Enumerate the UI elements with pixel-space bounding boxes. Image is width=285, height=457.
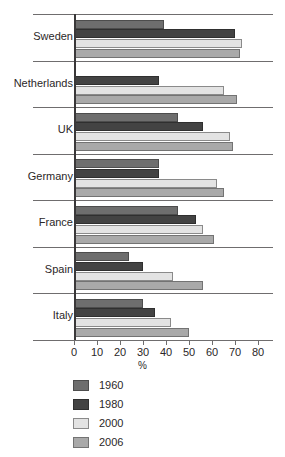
category-label-france: France: [39, 217, 73, 228]
bar-france-1960: [74, 206, 178, 215]
bar-spain-2006: [74, 281, 203, 290]
bar-sweden-1960: [74, 20, 164, 29]
category-label-sweden: Sweden: [33, 31, 73, 42]
bar-uk-2000: [74, 132, 230, 141]
legend-swatch-1980: [73, 399, 89, 410]
category-label-uk: UK: [58, 124, 73, 135]
group-separator: [33, 247, 273, 248]
legend-item-2006: 2006: [73, 433, 123, 451]
plot-area: SwedenNetherlandsUKGermanyFranceSpainIta…: [0, 14, 285, 340]
x-tick-label: 50: [183, 346, 195, 358]
bar-germany-2006: [74, 188, 224, 197]
category-label-italy: Italy: [53, 310, 73, 321]
zero-axis-line: [74, 14, 76, 341]
bar-italy-1960: [74, 299, 143, 308]
legend-item-2000: 2000: [73, 414, 123, 432]
legend-swatch-2000: [73, 418, 89, 429]
bottom-cropped-caption: [8, 451, 278, 457]
bar-spain-2000: [74, 272, 173, 281]
legend-label-1980: 1980: [99, 398, 123, 410]
legend-swatch-1960: [73, 380, 89, 391]
bar-sweden-1980: [74, 29, 235, 38]
bar-france-2000: [74, 225, 203, 234]
x-axis-line: [33, 340, 273, 341]
bar-spain-1980: [74, 262, 143, 271]
bar-france-1980: [74, 215, 196, 224]
x-tick: [97, 341, 98, 345]
bar-chart-figure: SwedenNetherlandsUKGermanyFranceSpainIta…: [0, 0, 285, 457]
group-separator: [33, 14, 273, 15]
legend-item-1960: 1960: [73, 376, 123, 394]
x-tick: [212, 341, 213, 345]
x-axis-title: %: [0, 360, 285, 371]
x-tick: [258, 341, 259, 345]
bar-germany-1980: [74, 169, 159, 178]
bar-group: Italy: [0, 293, 285, 340]
bar-netherlands-2000: [74, 86, 224, 95]
x-tick-label: 40: [160, 346, 172, 358]
x-tick-label: 10: [91, 346, 103, 358]
legend-item-1980: 1980: [73, 395, 123, 413]
x-tick: [74, 341, 75, 345]
bar-italy-2000: [74, 318, 171, 327]
group-separator: [33, 61, 273, 62]
legend-label-2006: 2006: [99, 436, 123, 448]
x-tick: [120, 341, 121, 345]
group-separator: [33, 107, 273, 108]
x-tick-label: 30: [137, 346, 149, 358]
x-tick-label: 70: [229, 346, 241, 358]
bar-group: Spain: [0, 247, 285, 294]
bar-italy-1980: [74, 308, 155, 317]
category-label-spain: Spain: [45, 264, 73, 275]
bar-uk-1960: [74, 113, 178, 122]
bar-italy-2006: [74, 328, 189, 337]
bar-spain-1960: [74, 252, 129, 261]
category-label-netherlands: Netherlands: [14, 78, 73, 89]
x-tick: [143, 341, 144, 345]
bar-group: UK: [0, 107, 285, 154]
x-tick: [235, 341, 236, 345]
group-separator: [33, 154, 273, 155]
bar-group: France: [0, 200, 285, 247]
legend-label-1960: 1960: [99, 379, 123, 391]
bar-germany-2000: [74, 179, 217, 188]
legend-swatch-2006: [73, 437, 89, 448]
x-tick-label: 0: [71, 346, 77, 358]
x-tick-label: 60: [206, 346, 218, 358]
group-separator: [33, 293, 273, 294]
bar-netherlands-2006: [74, 95, 237, 104]
bar-germany-1960: [74, 159, 159, 168]
bar-netherlands-1980: [74, 76, 159, 85]
legend-label-2000: 2000: [99, 417, 123, 429]
bar-group: Germany: [0, 154, 285, 201]
bar-group: Netherlands: [0, 61, 285, 108]
x-tick: [166, 341, 167, 345]
x-tick: [189, 341, 190, 345]
group-separator: [33, 200, 273, 201]
bar-group: Sweden: [0, 14, 285, 61]
x-tick-label: 80: [252, 346, 264, 358]
bar-sweden-2006: [74, 49, 240, 58]
legend: 1960198020002006: [73, 376, 123, 452]
x-tick-label: 20: [114, 346, 126, 358]
bar-france-2006: [74, 235, 214, 244]
bar-uk-1980: [74, 122, 203, 131]
bar-sweden-2000: [74, 39, 242, 48]
category-label-germany: Germany: [28, 171, 73, 182]
bar-uk-2006: [74, 142, 233, 151]
top-cropped-text: [96, 0, 216, 2]
